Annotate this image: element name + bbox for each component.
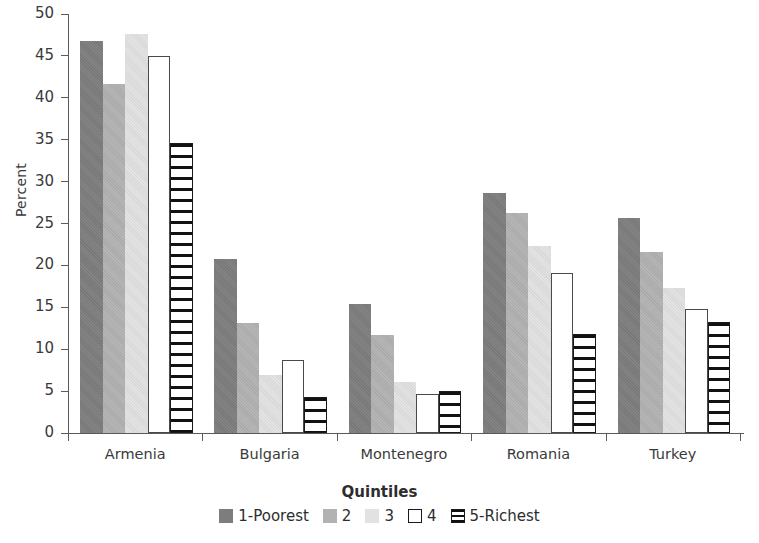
- bar-turkey-q4: [685, 309, 708, 433]
- legend-label: 4: [427, 507, 437, 525]
- x-tick-origin: [68, 433, 69, 441]
- plot-area: [68, 14, 740, 433]
- bar-montenegro-q3: [394, 382, 417, 433]
- y-tick-label: 5: [14, 380, 54, 400]
- bar-romania-q4: [551, 273, 574, 433]
- y-tick-mark: [61, 97, 68, 98]
- bar-romania-q1: [483, 193, 506, 433]
- bar-armenia-q5: [170, 143, 193, 433]
- legend: Quintiles 1-Poorest2345-Richest: [0, 483, 759, 525]
- y-tick-label: 25: [14, 213, 54, 233]
- legend-item-5[interactable]: 5-Richest: [451, 507, 540, 525]
- bar-armenia-q1: [80, 41, 103, 433]
- legend-items: 1-Poorest2345-Richest: [0, 507, 759, 525]
- y-tick-label: 35: [14, 129, 54, 149]
- y-tick-mark: [61, 433, 68, 434]
- bar-bulgaria-q5: [304, 397, 327, 433]
- legend-label: 3: [384, 507, 394, 525]
- legend-swatch-icon-2: [323, 509, 337, 523]
- x-axis-label-romania: Romania: [468, 446, 608, 462]
- bar-chart: Percent 05101520253035404550 ArmeniaBulg…: [0, 0, 759, 543]
- legend-swatch-icon-3: [365, 509, 379, 523]
- legend-item-4[interactable]: 4: [408, 507, 437, 525]
- bar-turkey-q3: [663, 288, 686, 433]
- bar-romania-q3: [528, 246, 551, 433]
- bar-turkey-q5: [708, 322, 731, 433]
- y-tick-mark: [61, 223, 68, 224]
- bar-turkey-q2: [640, 252, 663, 433]
- legend-swatch-icon-1: [219, 509, 233, 523]
- bar-group-bulgaria: [202, 14, 336, 433]
- y-tick-mark: [61, 391, 68, 392]
- bar-armenia-q2: [103, 84, 126, 433]
- y-tick-mark: [61, 265, 68, 266]
- bar-group-montenegro: [337, 14, 471, 433]
- bar-bulgaria-q1: [214, 259, 237, 433]
- bar-montenegro-q5: [439, 391, 462, 433]
- bar-montenegro-q1: [349, 304, 372, 433]
- legend-label: 5-Richest: [470, 507, 540, 525]
- bar-bulgaria-q2: [237, 323, 260, 433]
- bar-romania-q2: [506, 213, 529, 433]
- bar-bulgaria-q3: [259, 375, 282, 433]
- y-tick-label: 15: [14, 296, 54, 316]
- y-tick-label: 40: [14, 87, 54, 107]
- x-axis-label-bulgaria: Bulgaria: [200, 446, 340, 462]
- x-axis-line: [68, 433, 744, 434]
- legend-title: Quintiles: [0, 483, 759, 501]
- bar-group-armenia: [68, 14, 202, 433]
- x-tick: [337, 433, 338, 441]
- y-tick-mark: [61, 181, 68, 182]
- y-tick-mark: [61, 55, 68, 56]
- y-tick-mark: [61, 307, 68, 308]
- legend-swatch-icon-4: [408, 509, 422, 523]
- y-tick-mark: [61, 349, 68, 350]
- bar-armenia-q3: [125, 34, 148, 433]
- bar-bulgaria-q4: [282, 360, 305, 433]
- y-tick-mark: [61, 14, 68, 15]
- x-axis-label-montenegro: Montenegro: [334, 446, 474, 462]
- x-tick: [471, 433, 472, 441]
- legend-label: 1-Poorest: [238, 507, 309, 525]
- y-tick-label: 0: [14, 422, 54, 442]
- y-tick-mark: [61, 139, 68, 140]
- bar-armenia-q4: [148, 56, 171, 433]
- x-axis-label-turkey: Turkey: [603, 446, 743, 462]
- x-tick: [606, 433, 607, 441]
- bar-group-romania: [471, 14, 605, 433]
- legend-item-2[interactable]: 2: [323, 507, 352, 525]
- bar-group-turkey: [606, 14, 740, 433]
- y-tick-label: 20: [14, 254, 54, 274]
- bar-montenegro-q2: [371, 335, 394, 433]
- bar-romania-q5: [573, 334, 596, 433]
- legend-swatch-icon-5: [451, 509, 465, 523]
- bar-turkey-q1: [618, 218, 641, 433]
- x-tick: [202, 433, 203, 441]
- bar-montenegro-q4: [416, 394, 439, 433]
- y-tick-label: 30: [14, 171, 54, 191]
- y-tick-label: 10: [14, 338, 54, 358]
- y-tick-label: 45: [14, 45, 54, 65]
- legend-item-1[interactable]: 1-Poorest: [219, 507, 309, 525]
- y-tick-label: 50: [14, 3, 54, 23]
- x-tick: [740, 433, 741, 441]
- x-axis-label-armenia: Armenia: [65, 446, 205, 462]
- legend-label: 2: [342, 507, 352, 525]
- legend-item-3[interactable]: 3: [365, 507, 394, 525]
